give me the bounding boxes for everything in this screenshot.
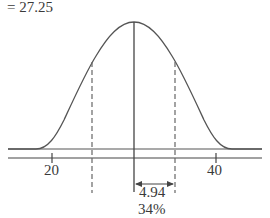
tick-label-40: 40 — [207, 163, 222, 178]
mean-label: = 27.25 — [7, 0, 53, 15]
percent-label: 34% — [138, 202, 166, 217]
std-dev-label: 4.94 — [139, 185, 165, 200]
normal-curve-figure — [0, 0, 270, 218]
tick-label-20: 20 — [44, 163, 59, 178]
bell-curve — [8, 22, 262, 149]
